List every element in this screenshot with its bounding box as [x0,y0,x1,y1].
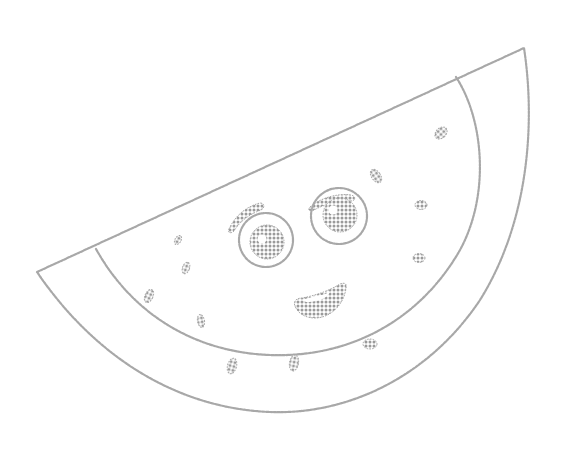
watermelon-slice-drawing [0,0,586,467]
watermelon-outline [37,48,529,412]
seed [142,288,155,304]
right-eye-pupil [323,198,357,232]
rind-inner-edge [96,77,480,355]
watermelon-seeds [142,125,449,375]
left-eye-pupil [250,225,284,259]
coloring-page-canvas [0,0,586,467]
seed [226,357,239,375]
seed [288,354,300,371]
seed [415,201,427,210]
seed [433,125,450,142]
seed [368,167,384,184]
mouth [294,283,346,318]
seed [173,234,183,246]
seed [363,339,377,349]
left-eye-highlight [258,235,267,244]
seed [181,261,192,275]
watermelon-face [228,188,367,318]
rind-outer-edge [37,48,529,412]
right-eye-highlight [329,206,338,215]
seed [413,254,425,263]
seed [196,314,205,328]
